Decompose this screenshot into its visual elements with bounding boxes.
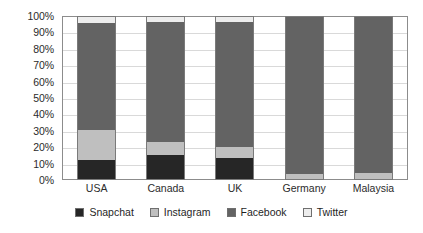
y-axis-tick-label: 0% <box>39 174 54 186</box>
y-axis-tick-label: 40% <box>33 108 54 120</box>
legend-item[interactable]: Instagram <box>150 206 211 218</box>
y-axis-tick-label: 30% <box>33 125 54 137</box>
y-axis-tick-label: 80% <box>33 43 54 55</box>
bar-group <box>131 16 200 180</box>
stacked-bar-chart: 0%10%20%30%40%50%60%70%80%90%100% USACan… <box>0 0 423 233</box>
y-axis-tick-label: 10% <box>33 158 54 170</box>
y-axis-tick-label: 50% <box>33 92 54 104</box>
x-axis: USACanadaUKGermanyMalaysia <box>62 182 408 200</box>
bar-segment-facebook[interactable] <box>147 22 184 142</box>
legend-swatch-icon <box>303 208 312 217</box>
stacked-bar[interactable] <box>146 16 185 180</box>
stacked-bar[interactable] <box>215 16 254 180</box>
bar-segment-facebook[interactable] <box>355 17 392 173</box>
legend-item-label: Snapchat <box>89 206 133 218</box>
bar-segment-instagram[interactable] <box>216 147 253 158</box>
legend-item[interactable]: Twitter <box>303 206 348 218</box>
stacked-bar[interactable] <box>285 16 324 180</box>
bar-group <box>270 16 339 180</box>
x-axis-tick-label: Germany <box>283 182 326 194</box>
bar-segment-snapchat[interactable] <box>216 158 253 179</box>
legend-swatch-icon <box>227 208 236 217</box>
bar-segment-facebook[interactable] <box>286 17 323 174</box>
legend-item-label: Twitter <box>317 206 348 218</box>
y-axis-tick-label: 20% <box>33 141 54 153</box>
bar-segment-instagram[interactable] <box>147 142 184 155</box>
legend-swatch-icon <box>150 208 159 217</box>
bar-group <box>200 16 269 180</box>
bar-group <box>339 16 408 180</box>
legend-item[interactable]: Facebook <box>227 206 287 218</box>
y-axis-tick-label: 90% <box>33 26 54 38</box>
legend-item[interactable]: Snapchat <box>75 206 133 218</box>
bar-segment-instagram[interactable] <box>78 130 115 159</box>
x-axis-tick-label: USA <box>86 182 108 194</box>
legend-swatch-icon <box>75 208 84 217</box>
bars-layer <box>62 16 408 180</box>
x-axis-tick-label: UK <box>228 182 243 194</box>
bar-segment-instagram[interactable] <box>286 174 323 179</box>
y-axis-tick-label: 60% <box>33 76 54 88</box>
chart-legend: SnapchatInstagramFacebookTwitter <box>0 206 423 218</box>
legend-item-label: Facebook <box>241 206 287 218</box>
y-axis-tick-label: 70% <box>33 59 54 71</box>
x-axis-tick-label: Canada <box>147 182 184 194</box>
y-axis: 0%10%20%30%40%50%60%70%80%90%100% <box>0 16 58 180</box>
stacked-bar[interactable] <box>77 16 116 180</box>
bar-segment-snapchat[interactable] <box>147 155 184 179</box>
bar-segment-facebook[interactable] <box>78 23 115 130</box>
bar-segment-facebook[interactable] <box>216 22 253 147</box>
stacked-bar[interactable] <box>354 16 393 180</box>
legend-item-label: Instagram <box>164 206 211 218</box>
x-axis-tick-label: Malaysia <box>353 182 394 194</box>
bar-group <box>62 16 131 180</box>
y-axis-tick-label: 100% <box>28 10 54 22</box>
bar-segment-instagram[interactable] <box>355 173 392 179</box>
bar-segment-snapchat[interactable] <box>78 160 115 179</box>
